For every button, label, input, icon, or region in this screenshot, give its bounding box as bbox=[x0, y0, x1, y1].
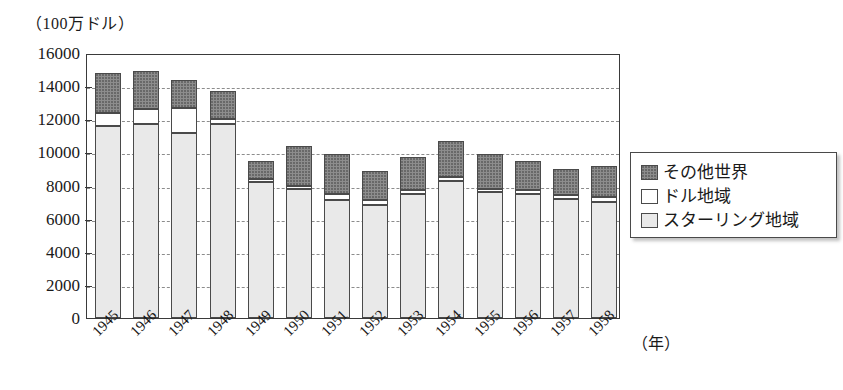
bar-segment-dollar[interactable] bbox=[324, 194, 350, 201]
legend-item[interactable]: ドル地域 bbox=[641, 184, 731, 208]
bar-group[interactable] bbox=[286, 53, 312, 318]
bar-segment-sterling[interactable] bbox=[362, 205, 388, 318]
legend-label: ドル地域 bbox=[663, 188, 731, 205]
bar-segment-sterling[interactable] bbox=[553, 199, 579, 318]
y-axis-tick-label: 6000 bbox=[46, 210, 80, 230]
bar-group[interactable] bbox=[133, 53, 159, 318]
bar-segment-dollar[interactable] bbox=[515, 190, 541, 193]
bar-group[interactable] bbox=[324, 53, 350, 318]
bar-segment-sterling[interactable] bbox=[171, 133, 197, 319]
bar-segment-dollar[interactable] bbox=[95, 113, 121, 126]
y-axis-tick-labels: 0200040006000800010000120001400016000 bbox=[0, 54, 80, 319]
y-axis-tick-label: 2000 bbox=[46, 276, 80, 296]
bar-segment-sterling[interactable] bbox=[248, 182, 274, 318]
y-axis-tick-label: 8000 bbox=[46, 177, 80, 197]
bar-group[interactable] bbox=[400, 53, 426, 318]
bar-group[interactable] bbox=[591, 53, 617, 318]
bar-segment-other[interactable] bbox=[591, 166, 617, 197]
y-axis-tick-label: 4000 bbox=[46, 243, 80, 263]
y-axis-tick-mark bbox=[85, 120, 92, 121]
bar-segment-dollar[interactable] bbox=[286, 186, 312, 189]
bar-segment-other[interactable] bbox=[362, 171, 388, 201]
y-axis-tick-mark bbox=[85, 286, 92, 287]
legend-label: その他世界 bbox=[663, 164, 748, 181]
y-axis-unit-caption: （100万ドル） bbox=[26, 10, 134, 34]
bar-segment-sterling[interactable] bbox=[95, 126, 121, 318]
bar-segment-other[interactable] bbox=[210, 91, 236, 119]
legend-swatch-icon bbox=[641, 165, 658, 180]
bar-segment-dollar[interactable] bbox=[553, 195, 579, 198]
bar-segment-sterling[interactable] bbox=[438, 181, 464, 318]
y-axis-tick-mark bbox=[85, 220, 92, 221]
y-axis-tick-label: 10000 bbox=[38, 143, 81, 163]
bar-group[interactable] bbox=[515, 53, 541, 318]
bar-group[interactable] bbox=[477, 53, 503, 318]
bar-segment-sterling[interactable] bbox=[286, 189, 312, 318]
bar-segment-other[interactable] bbox=[286, 146, 312, 186]
bar-segment-dollar[interactable] bbox=[438, 177, 464, 180]
y-axis-tick-mark bbox=[85, 187, 92, 188]
bar-segment-dollar[interactable] bbox=[591, 197, 617, 202]
bar-segment-dollar[interactable] bbox=[477, 189, 503, 192]
y-axis-tick-mark bbox=[85, 153, 92, 154]
bar-group[interactable] bbox=[248, 53, 274, 318]
bar-segment-other[interactable] bbox=[515, 161, 541, 191]
bar-segment-other[interactable] bbox=[95, 73, 121, 113]
bar-segment-other[interactable] bbox=[324, 154, 350, 194]
bar-segment-sterling[interactable] bbox=[591, 202, 617, 318]
bar-chart-figure: （100万ドル） 0200040006000800010000120001400… bbox=[0, 0, 843, 390]
bar-segment-dollar[interactable] bbox=[400, 190, 426, 193]
plot-inner bbox=[87, 55, 619, 318]
bar-segment-dollar[interactable] bbox=[171, 108, 197, 133]
legend-label: スターリング地域 bbox=[663, 212, 799, 229]
bar-segment-other[interactable] bbox=[438, 141, 464, 177]
y-axis-tick-label: 16000 bbox=[38, 44, 81, 64]
bar-group[interactable] bbox=[362, 53, 388, 318]
bar-segment-dollar[interactable] bbox=[210, 119, 236, 124]
bar-segment-other[interactable] bbox=[553, 169, 579, 196]
legend-swatch-icon bbox=[641, 213, 658, 228]
bar-group[interactable] bbox=[553, 53, 579, 318]
y-axis-tick-mark bbox=[85, 87, 92, 88]
bar-segment-sterling[interactable] bbox=[210, 124, 236, 318]
y-axis-tick-mark bbox=[85, 253, 92, 254]
bar-group[interactable] bbox=[438, 53, 464, 318]
bar-segment-sterling[interactable] bbox=[515, 194, 541, 318]
bar-segment-sterling[interactable] bbox=[477, 192, 503, 318]
legend-item[interactable]: スターリング地域 bbox=[641, 208, 799, 232]
bar-group[interactable] bbox=[210, 53, 236, 318]
bar-segment-sterling[interactable] bbox=[133, 124, 159, 318]
plot-area bbox=[86, 54, 620, 319]
legend-item[interactable]: その他世界 bbox=[641, 160, 748, 184]
legend-swatch-icon bbox=[641, 189, 658, 204]
y-axis-tick-label: 12000 bbox=[38, 110, 81, 130]
bar-segment-other[interactable] bbox=[248, 161, 274, 179]
y-axis-tick-label: 14000 bbox=[38, 77, 81, 97]
x-axis-unit-label: （年） bbox=[632, 330, 680, 354]
legend: その他世界ドル地域スターリング地域 bbox=[630, 152, 837, 238]
bar-segment-dollar[interactable] bbox=[133, 109, 159, 124]
bar-segment-sterling[interactable] bbox=[400, 194, 426, 318]
bar-group[interactable] bbox=[95, 53, 121, 318]
x-axis-tick-labels: 1945194619471948194919501951195219531954… bbox=[86, 322, 620, 382]
bar-segment-sterling[interactable] bbox=[324, 200, 350, 318]
bar-segment-other[interactable] bbox=[400, 157, 426, 190]
bar-segment-other[interactable] bbox=[477, 154, 503, 189]
bars-layer bbox=[87, 55, 619, 318]
y-axis-tick-label: 0 bbox=[72, 309, 81, 329]
bar-group[interactable] bbox=[171, 53, 197, 318]
bar-segment-other[interactable] bbox=[171, 80, 197, 108]
bar-segment-dollar[interactable] bbox=[248, 179, 274, 182]
bar-segment-other[interactable] bbox=[133, 71, 159, 109]
bar-segment-dollar[interactable] bbox=[362, 200, 388, 205]
